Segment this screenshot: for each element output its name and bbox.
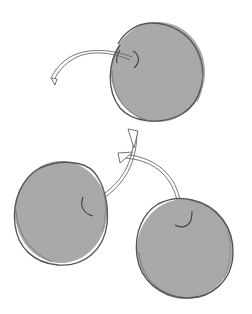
bottom-right-cherry xyxy=(136,199,233,299)
illustration-svg xyxy=(0,0,252,314)
top-cherry xyxy=(110,22,205,122)
cherry-illustration xyxy=(0,0,252,314)
bottom-left-cherry xyxy=(14,161,107,265)
